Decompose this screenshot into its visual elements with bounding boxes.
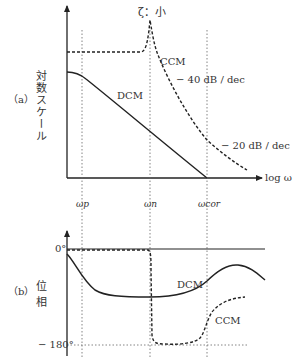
dcm-magnitude-curve [67,72,207,178]
omega-cor-label: ωcor [198,200,220,209]
magnitude-y-axis-label: 対数スケール [35,70,46,142]
x-axis-label: log ω [265,173,292,183]
dcm-slope-label: − 20 dB / dec [221,141,290,151]
phase-tick-minus180: − 180° [38,340,74,350]
phase-plot [67,231,265,356]
dcm-magnitude-label: DCM [117,91,143,101]
zeta-small-annotation: ζ：小 [138,7,166,18]
ccm-phase-label: CCM [215,316,241,326]
panel-b-label: （b） [8,287,34,297]
ccm-magnitude-label: CCM [160,57,186,67]
ccm-slope-label: − 40 dB / dec [176,75,245,85]
phase-tick-0: 0° [55,244,66,254]
dcm-phase-curve [67,254,265,297]
omega-p-label: ωp [76,200,89,209]
panel-a-label: （a） [8,95,34,105]
ccm-magnitude-curve [67,20,247,170]
phase-y-axis-label: 位 相 [35,280,46,309]
dcm-phase-label: DCM [177,280,203,290]
omega-n-label: ωn [144,200,157,209]
